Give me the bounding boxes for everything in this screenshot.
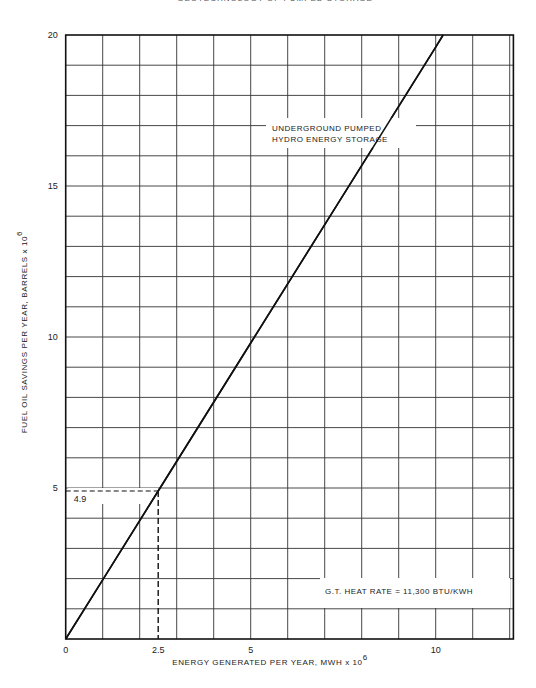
x-tick-label: 0 [63,645,68,655]
series-annotation-line: HYDRO ENERGY STORAGE [272,135,388,144]
y-tick-label: 10 [48,332,58,342]
x-tick-label: 10 [431,645,441,655]
y-tick-label: 5 [53,483,58,493]
y-tick-label: 15 [48,181,58,191]
line-chart: 02.5510 5101520 ENERGY GENERATED PER YEA… [0,0,536,688]
y-tick-label: 20 [48,30,58,40]
x-tick-label: 2.5 [152,645,165,655]
heat-rate-annotation: G.T. HEAT RATE = 11,300 BTU/KWH [325,587,473,596]
y-tick-labels: 5101520 [48,30,58,493]
x-axis-label: ENERGY GENERATED PER YEAR, MWH x 106 [172,653,367,667]
y-axis-label: FUEL OIL SAVINGS PER YEAR, BARRELS x 106 [15,231,29,433]
reference-value-label: 4.9 [74,494,87,504]
series-annotation-line: UNDERGROUND PUMPED [272,124,381,133]
x-tick-label: 5 [248,645,253,655]
x-tick-labels: 02.5510 [63,645,441,655]
